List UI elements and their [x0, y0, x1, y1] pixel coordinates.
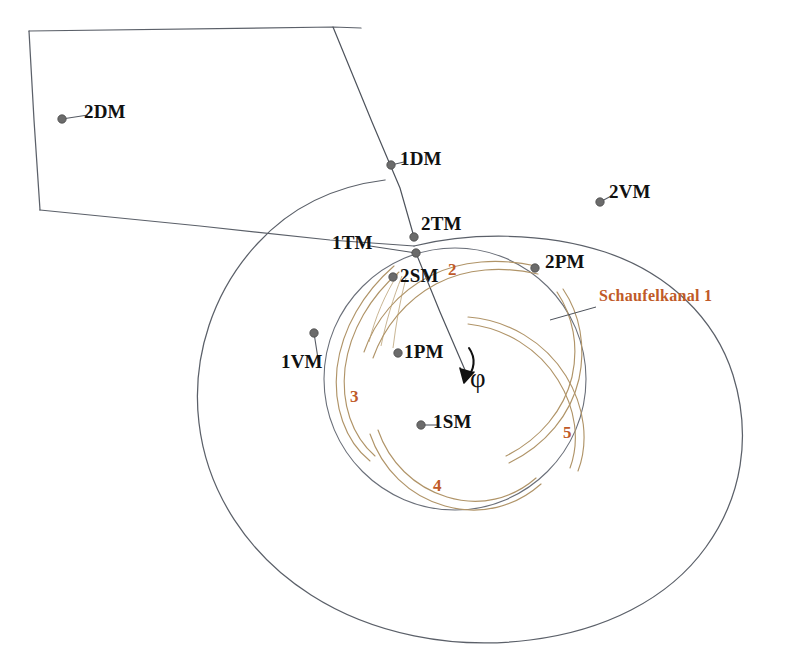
diagram-canvas: 2DM1DM2VM2TM1TM2PM2SM1VM1PM1SM 2345 Scha…	[0, 0, 801, 659]
diagram-vector-layer	[0, 0, 801, 659]
measurement-point-label-2sm: 2SM	[400, 265, 439, 287]
measurement-point-leader	[370, 246, 416, 253]
channel-2-label: 2	[448, 260, 457, 280]
measurement-point-label-1sm: 1SM	[433, 411, 472, 433]
measurement-point-label-2pm: 2PM	[545, 251, 585, 273]
measurement-point-dot[interactable]	[394, 349, 402, 357]
schaufelkanal-leader-line	[550, 307, 596, 320]
measurement-point-label-2dm: 2DM	[84, 101, 126, 123]
measurement-point-dot[interactable]	[58, 115, 66, 123]
measurement-point-label-2vm: 2VM	[609, 181, 651, 203]
measurement-point-dot[interactable]	[531, 264, 539, 272]
measurement-point-dot[interactable]	[417, 421, 425, 429]
measurement-point-dot[interactable]	[596, 198, 604, 206]
impeller-blade-1	[336, 266, 399, 461]
measurement-point-label-1pm: 1PM	[404, 341, 444, 363]
channel-3-label: 3	[350, 387, 359, 407]
measurement-point-dot[interactable]	[387, 161, 395, 169]
measurement-point-dot[interactable]	[389, 273, 397, 281]
measurement-point-label-1dm: 1DM	[400, 148, 442, 170]
measurement-point-dot[interactable]	[310, 329, 318, 337]
channel-5-label: 5	[563, 423, 572, 443]
measurement-point-dot[interactable]	[412, 249, 420, 257]
channel-4-label: 4	[433, 476, 442, 496]
rotation-angle-symbol: φ	[470, 363, 486, 394]
impeller-outer-circle	[324, 248, 586, 510]
measurement-point-label-2tm: 2TM	[421, 213, 462, 235]
measurement-point-label-1tm: 1TM	[332, 232, 373, 254]
schaufelkanal-1-label: Schaufelkanal 1	[599, 287, 712, 305]
impeller-blade-5	[370, 430, 541, 510]
inlet-duct-outline	[29, 27, 414, 246]
reference-radius-line	[333, 27, 468, 377]
measurement-point-dot[interactable]	[410, 233, 418, 241]
measurement-point-label-1vm: 1VM	[281, 351, 323, 373]
